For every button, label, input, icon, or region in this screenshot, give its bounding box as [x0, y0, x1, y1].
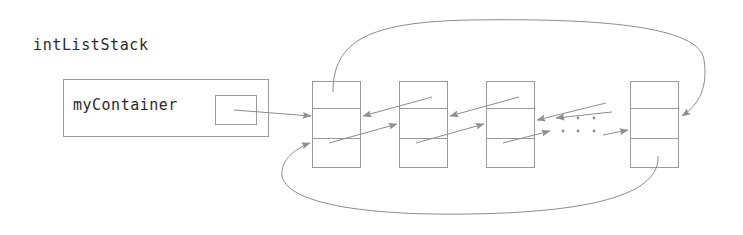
list-node-4: [631, 82, 679, 168]
list-node-2: [400, 82, 448, 168]
myContainer-label: myContainer: [73, 96, 178, 114]
next-link-node3-to-ellipsis: [503, 131, 550, 143]
ellipsis-lower: [562, 130, 596, 133]
pointer-myContainer-to-node1: [234, 110, 311, 116]
linked-list-diagram: intListStack myContainer: [0, 0, 743, 235]
list-node-3: [487, 82, 535, 168]
intListStack-label: intListStack: [33, 36, 149, 54]
wrap-link-bottom-node4-to-node1: [282, 143, 658, 214]
next-link-ellipsis-to-node4: [603, 130, 628, 135]
prev-link-node3-to-node2: [450, 97, 519, 116]
next-link-node1-to-node2: [329, 124, 397, 143]
prev-link-ellipsis-to-node3: [537, 103, 606, 120]
list-node-1: [313, 82, 361, 168]
next-link-node2-to-node3: [416, 124, 484, 143]
wrap-link-top-node1-to-node4: [333, 20, 705, 116]
prev-link-node2-to-node1: [363, 97, 432, 116]
